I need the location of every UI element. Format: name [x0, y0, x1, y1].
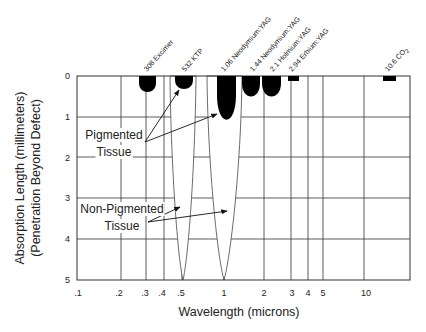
annotation-non-pigmented: Non-Pigmented Tissue — [79, 202, 164, 233]
y-axis-title: Absorption Length (millimeters) (Penetra… — [13, 92, 43, 265]
x-axis-title: Wavelength (microns) — [178, 305, 299, 319]
svg-text:3: 3 — [65, 193, 70, 203]
annotation-pigmented: Pigmented Tissue — [84, 128, 143, 159]
svg-text:3: 3 — [289, 288, 294, 298]
x-tick-labels: .1 .2 .3 .4 .5 1 2 3 4 5 10 — [74, 288, 371, 298]
svg-text:308 Excimer: 308 Excimer — [142, 37, 176, 73]
absorption-length-chart: Pigmented Tissue Non-Pigmented Tissue 0 … — [0, 0, 426, 332]
svg-text:.2: .2 — [115, 288, 123, 298]
svg-text:2: 2 — [65, 153, 70, 163]
svg-text:4: 4 — [65, 234, 70, 244]
blob-co2 — [383, 76, 396, 81]
y-tick-labels: 0 1 2 3 4 5 — [65, 71, 70, 285]
svg-text:1.06 Neodymium:YAG: 1.06 Neodymium:YAG — [219, 14, 273, 73]
blob-excimer — [139, 76, 156, 92]
svg-text:.5: .5 — [177, 288, 185, 298]
blob-erbium — [288, 76, 299, 81]
svg-text:2: 2 — [261, 288, 266, 298]
vertical-gridlines — [121, 76, 364, 280]
laser-labels: 308 Excimer 532 KTP 1.06 Neodymium:YAG 1… — [142, 14, 411, 74]
svg-text:5: 5 — [320, 288, 325, 298]
svg-text:1: 1 — [65, 112, 70, 122]
svg-text:.1: .1 — [74, 288, 82, 298]
svg-text:10.6 CO2: 10.6 CO2 — [383, 44, 411, 74]
blob-ndyag-144 — [242, 76, 260, 97]
svg-text:Non-Pigmented: Non-Pigmented — [80, 202, 163, 216]
svg-text:Tissue: Tissue — [97, 145, 132, 159]
svg-text:Tissue: Tissue — [105, 219, 140, 233]
svg-text:0: 0 — [65, 71, 70, 81]
svg-text:Pigmented: Pigmented — [85, 128, 142, 142]
blob-holmium — [262, 76, 281, 97]
svg-text:.3: .3 — [141, 288, 149, 298]
svg-text:Absorption Length (millimeters: Absorption Length (millimeters) — [13, 92, 27, 265]
svg-text:(Penetration Beyond Defect): (Penetration Beyond Defect) — [29, 99, 43, 257]
svg-text:5: 5 — [65, 275, 70, 285]
svg-text:.4: .4 — [158, 288, 166, 298]
plot-frame — [77, 76, 410, 280]
blob-ndyag-106 — [217, 76, 236, 120]
svg-text:532 KTP: 532 KTP — [180, 46, 206, 73]
svg-text:1: 1 — [221, 288, 226, 298]
svg-text:4: 4 — [305, 288, 310, 298]
svg-text:10: 10 — [361, 288, 371, 298]
